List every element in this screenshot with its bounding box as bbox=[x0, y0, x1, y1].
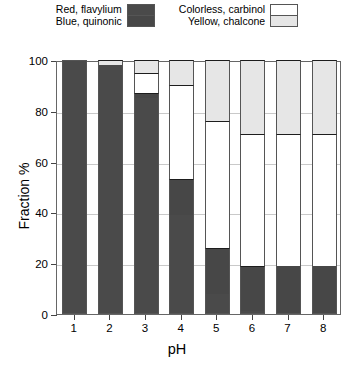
stacked-bar[interactable] bbox=[134, 60, 159, 314]
legend-group-dark: Red, flavylium Blue, quinonic bbox=[56, 4, 155, 27]
stacked-bar[interactable] bbox=[169, 60, 194, 314]
x-tick-label: 4 bbox=[166, 322, 196, 334]
bar-segment bbox=[169, 215, 194, 314]
bar-segment bbox=[169, 60, 194, 85]
bar-segment bbox=[169, 179, 194, 215]
stacked-bar[interactable] bbox=[312, 60, 337, 314]
x-tick-mark bbox=[323, 315, 324, 320]
x-tick-label: 2 bbox=[94, 322, 124, 334]
legend-swatches-light bbox=[270, 4, 298, 27]
bar-segment bbox=[98, 60, 123, 65]
y-axis-title: Fraction % bbox=[16, 121, 32, 271]
plot-area bbox=[56, 61, 341, 315]
legend-swatches-dark bbox=[127, 4, 155, 27]
figure-canvas: Red, flavylium Blue, quinonic Colorless,… bbox=[0, 0, 354, 374]
bar-segment bbox=[205, 121, 230, 248]
stacked-bar[interactable] bbox=[62, 60, 87, 314]
x-tick-label: 5 bbox=[201, 322, 231, 334]
stacked-bar[interactable] bbox=[240, 60, 265, 314]
x-tick-label: 7 bbox=[273, 322, 303, 334]
blue-quinonic-swatch bbox=[128, 15, 154, 26]
bar-segment bbox=[98, 65, 123, 314]
y-tick-label: 80 bbox=[0, 106, 48, 118]
bar-segment bbox=[169, 85, 194, 179]
bar-segment bbox=[134, 93, 159, 98]
bar-segment bbox=[276, 266, 301, 314]
stacked-bar[interactable] bbox=[276, 60, 301, 314]
stacked-bar[interactable] bbox=[205, 60, 230, 314]
bar-segment bbox=[205, 60, 230, 121]
legend-label-yellow-chalcone: Yellow, chalcone bbox=[179, 16, 265, 28]
bar-segment bbox=[240, 311, 265, 314]
legend-label-blue-quinonic: Blue, quinonic bbox=[56, 16, 122, 28]
legend-label-red-flavylium: Red, flavylium bbox=[56, 4, 122, 16]
bar-segment bbox=[312, 266, 337, 314]
legend-group-light: Colorless, carbinol Yellow, chalcone bbox=[179, 4, 298, 27]
bar-segment bbox=[134, 73, 159, 93]
bar-segment bbox=[312, 60, 337, 134]
colorless-carbinol-swatch bbox=[271, 5, 297, 15]
x-tick-label: 8 bbox=[308, 322, 338, 334]
legend-label-colorless-carbinol: Colorless, carbinol bbox=[179, 4, 265, 16]
x-tick-mark bbox=[252, 315, 253, 320]
bar-segment bbox=[240, 134, 265, 266]
bar-segment bbox=[276, 134, 301, 266]
bar-segment bbox=[240, 266, 265, 312]
bar-segment bbox=[276, 60, 301, 134]
bar-segment bbox=[205, 248, 230, 294]
x-axis-title: pH bbox=[0, 341, 354, 357]
bar-segment bbox=[134, 60, 159, 73]
bar-segment bbox=[62, 60, 87, 314]
x-tick-mark bbox=[109, 315, 110, 320]
bar-segment bbox=[205, 294, 230, 314]
yellow-chalcone-swatch bbox=[271, 15, 297, 26]
bar-segment bbox=[312, 134, 337, 266]
x-tick-label: 6 bbox=[237, 322, 267, 334]
x-tick-mark bbox=[216, 315, 217, 320]
red-flavylium-swatch bbox=[128, 5, 154, 15]
stacked-bar[interactable] bbox=[98, 60, 123, 314]
y-axis: 020406080100 Fraction % bbox=[0, 0, 56, 374]
x-tick-label: 3 bbox=[130, 322, 160, 334]
y-tick-label: 100 bbox=[0, 55, 48, 67]
bar-segment bbox=[240, 60, 265, 134]
x-tick-mark bbox=[288, 315, 289, 320]
legend-labels-dark: Red, flavylium Blue, quinonic bbox=[56, 4, 122, 27]
bar-segment bbox=[134, 98, 159, 314]
y-tick-label: 0 bbox=[0, 309, 48, 321]
x-tick-label: 1 bbox=[59, 322, 89, 334]
x-tick-mark bbox=[74, 315, 75, 320]
x-tick-mark bbox=[181, 315, 182, 320]
x-tick-mark bbox=[145, 315, 146, 320]
y-tick-mark bbox=[51, 315, 57, 316]
legend-labels-light: Colorless, carbinol Yellow, chalcone bbox=[179, 4, 265, 27]
